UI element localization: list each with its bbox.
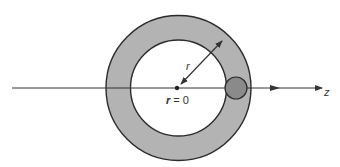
axis-direction-arrow-icon (270, 85, 280, 91)
particle (225, 77, 247, 99)
center-point (175, 86, 179, 90)
center-label-eq: = 0 (170, 94, 189, 106)
ring-diagram: r r = 0 z (0, 0, 340, 167)
z-axis-label: z (323, 86, 330, 98)
center-label: r = 0 (166, 94, 189, 106)
